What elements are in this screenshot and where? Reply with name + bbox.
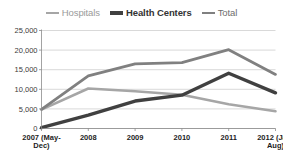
y-tick-label: 25,000 bbox=[15, 26, 38, 35]
legend-swatch-hospitals bbox=[46, 12, 59, 15]
axis-lines bbox=[42, 30, 276, 132]
plot-area: 05,00010,00015,00020,00025,000 2007 (May… bbox=[0, 22, 283, 160]
y-axis-tick-labels: 05,00010,00015,00020,00025,000 bbox=[15, 26, 38, 133]
legend-swatch-health-centers bbox=[110, 11, 123, 14]
legend-label-health-centers: Health Centers bbox=[126, 8, 192, 18]
legend-item-hospitals: Hospitals bbox=[46, 8, 100, 18]
y-tick-label: 10,000 bbox=[15, 85, 38, 94]
chart-canvas: 05,00010,00015,00020,00025,000 2007 (May… bbox=[0, 22, 283, 160]
x-tick-label: Dec) bbox=[33, 141, 50, 150]
legend-swatch-total bbox=[202, 12, 215, 15]
chart-legend: Hospitals Health Centers Total bbox=[0, 4, 283, 22]
x-tick-label: 2011 bbox=[221, 133, 237, 142]
data-series bbox=[42, 50, 276, 128]
x-tick-label: Aug) bbox=[267, 141, 283, 150]
legend-label-hospitals: Hospitals bbox=[62, 8, 100, 18]
legend-label-total: Total bbox=[218, 8, 238, 18]
x-tick-label: 2008 bbox=[80, 133, 97, 142]
x-tick-label: 2010 bbox=[174, 133, 191, 142]
legend-item-health-centers: Health Centers bbox=[110, 8, 192, 18]
y-tick-label: 20,000 bbox=[15, 46, 38, 55]
y-tick-label: 5,000 bbox=[19, 105, 38, 114]
x-axis-tick-labels: 2007 (May-Dec)20082009201020112012 (Jan-… bbox=[22, 133, 283, 151]
line-chart: Hospitals Health Centers Total 05,00010,… bbox=[0, 0, 283, 160]
legend-item-total: Total bbox=[202, 8, 238, 18]
y-tick-label: 15,000 bbox=[15, 65, 38, 74]
x-tick-label: 2009 bbox=[127, 133, 144, 142]
series-line-health-centers bbox=[42, 73, 276, 127]
series-line-hospitals bbox=[42, 89, 276, 112]
